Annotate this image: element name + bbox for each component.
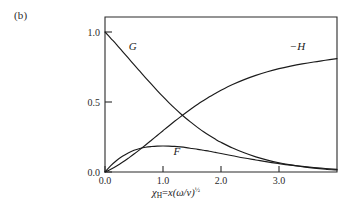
- y-tick-label: 0.0: [88, 167, 101, 178]
- curve-label-f: F: [173, 145, 181, 157]
- plot-area: 0.01.02.03.0 0.00.51.0 GF−H: [0, 0, 352, 209]
- y-tick-label: 0.5: [88, 97, 101, 108]
- curve-annotations: GF−H: [129, 40, 306, 157]
- x-tick-label: 2.0: [215, 175, 228, 186]
- y-tick-label: 1.0: [88, 27, 101, 38]
- curve-minus-h: [105, 59, 337, 172]
- figure-panel: (b) 0.01.02.03.0 0.00.51.0 GF−H χH=x(ω/ν…: [0, 0, 352, 209]
- x-tick-label: 3.0: [273, 175, 286, 186]
- data-curves: [105, 32, 337, 172]
- x-axis-ticks: [105, 166, 279, 172]
- curve-label-minus-h: −H: [290, 40, 306, 52]
- x-tick-label: 0.0: [99, 175, 112, 186]
- x-axis-title-exponent: ½: [195, 186, 200, 194]
- y-axis-ticks: [105, 32, 112, 172]
- x-axis-tick-labels: 0.01.02.03.0: [99, 175, 286, 186]
- y-axis-tick-labels: 0.00.51.0: [88, 27, 101, 178]
- x-axis-title-expression: x(ω/ν): [168, 187, 195, 198]
- x-axis-title: χH=x(ω/ν)½: [0, 186, 352, 200]
- x-tick-label: 1.0: [157, 175, 170, 186]
- curve-label-g: G: [129, 40, 137, 52]
